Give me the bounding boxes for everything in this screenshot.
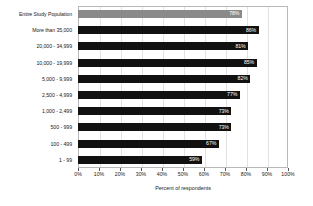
bar[interactable]: 59% [78,156,202,164]
bar-value-label: 85% [244,60,257,65]
x-axis-title: Percent of respondents [78,185,288,191]
category-label: More than 35,000 [0,22,75,38]
x-axis-tick-label: 100% [281,171,294,177]
x-axis-tick-label: 60% [199,171,209,177]
x-axis-tick-label: 80% [241,171,251,177]
bar-row: 85% [78,55,288,71]
bar[interactable]: 73% [78,123,231,131]
category-label: 1,000 - 2,499 [0,103,75,119]
bar[interactable]: 67% [78,140,219,148]
category-label: 5,000 - 9,999 [0,71,75,87]
x-axis-tick-label: 50% [178,171,188,177]
bar-value-label: 59% [189,157,202,162]
bar-row: 67% [78,136,288,152]
bar-row: 81% [78,38,288,54]
bar-value-label: 67% [206,141,219,146]
x-axis-tick-label: 70% [220,171,230,177]
bar-value-label: 73% [219,125,232,130]
x-axis-tick-label: 0% [74,171,82,177]
category-label: 500 - 999 [0,119,75,135]
bar-row: 82% [78,71,288,87]
bar-value-label: 73% [219,109,232,114]
category-label: Entire Study Population [0,6,75,22]
bar-row: 77% [78,87,288,103]
bar[interactable]: 86% [78,26,259,34]
category-label: 2,500 - 4,999 [0,87,75,103]
bar-row: 78% [78,6,288,22]
bar-series: 78%86%81%85%82%77%73%73%67%59% [78,6,288,168]
bar-row: 86% [78,22,288,38]
category-label: 100 - 499 [0,136,75,152]
category-label: 1 - 99 [0,152,75,168]
bar[interactable]: 85% [78,59,257,67]
bar-value-label: 86% [246,28,259,33]
bar-value-label: 77% [227,92,240,97]
bar-row: 73% [78,103,288,119]
category-label: 20,000 - 34,999 [0,38,75,54]
x-axis-tick-label: 20% [115,171,125,177]
category-axis-labels: Entire Study PopulationMore than 35,0002… [0,6,75,168]
bar[interactable]: 73% [78,107,231,115]
bar[interactable]: 81% [78,42,248,50]
category-label: 10,000 - 19,999 [0,55,75,71]
bar-value-label: 81% [236,44,249,49]
bar-chart: Entire Study PopulationMore than 35,0002… [0,0,313,206]
bar-value-label: 78% [229,11,242,16]
bar[interactable]: 77% [78,91,240,99]
bar-value-label: 82% [238,76,251,81]
x-axis-tick-label: 90% [262,171,272,177]
x-axis-tick-label: 10% [94,171,104,177]
bar[interactable]: 82% [78,75,250,83]
x-axis: 0%10%20%30%40%50%60%70%80%90%100% [78,168,288,180]
bar[interactable]: 78% [78,10,242,18]
x-axis-tick-label: 40% [157,171,167,177]
bar-row: 59% [78,152,288,168]
bar-row: 73% [78,119,288,135]
x-axis-tick-label: 30% [136,171,146,177]
